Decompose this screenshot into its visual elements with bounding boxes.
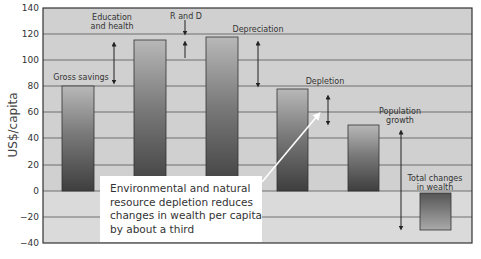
bar-population-growth [348,125,379,191]
bar-education-health [134,40,166,191]
y-tick-60: 60 [28,107,40,117]
callout-line-4: by about a third [110,223,262,237]
bar-depletion [277,89,308,191]
bar-gross-savings [62,86,94,191]
label-education-2: and health [91,22,134,31]
callout-line-3: changes in wealth per capita [110,209,262,223]
label-population-1: Population [379,107,421,116]
y-tick-minus-20: −20 [20,212,39,222]
y-tick-0: 0 [33,186,39,196]
bar-total-changes [420,193,451,230]
callout-line-1: Environmental and natural [110,182,262,196]
label-total-2: in wealth [417,183,454,192]
label-total-1: Total changes [407,174,463,183]
y-tick-120: 120 [22,29,39,39]
label-depletion: Depletion [306,77,345,86]
y-tick-40: 40 [28,133,40,143]
label-rd: R and D [170,12,202,21]
label-gross-savings: Gross savings [53,73,108,82]
bar-depreciation [206,37,238,191]
y-tick-20: 20 [28,160,40,170]
label-education-1: Education [92,13,132,22]
y-tick-100: 100 [22,55,39,65]
label-depreciation: Depreciation [232,25,283,34]
y-axis-label: US$/capita [6,92,20,157]
y-tick-minus-40: −40 [20,238,39,248]
callout-line-2: resource depletion reduces [110,196,262,210]
label-population-2: growth [386,116,414,125]
callout-box: Environmental and natural resource deple… [100,176,262,242]
y-tick-80: 80 [28,81,40,91]
y-tick-140: 140 [22,3,39,13]
y-axis: 140 120 100 80 60 40 20 0 −20 −40 [20,3,39,248]
